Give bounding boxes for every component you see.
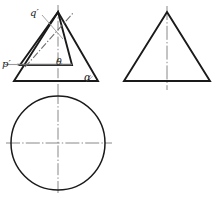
technical-drawing-canvas: q′ p′ θ α bbox=[0, 0, 213, 197]
label-alpha: α bbox=[84, 71, 91, 83]
label-p-prime: p′ bbox=[2, 58, 11, 69]
front-view: q′ p′ θ α bbox=[2, 5, 98, 92]
top-view bbox=[6, 92, 112, 195]
label-theta: θ bbox=[56, 56, 62, 67]
label-q-prime: q′ bbox=[30, 7, 39, 18]
drawing-svg: q′ p′ θ α bbox=[0, 0, 213, 197]
side-view bbox=[124, 6, 210, 90]
